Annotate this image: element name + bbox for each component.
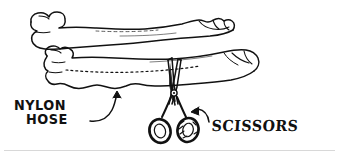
scissors-handle-right [175, 116, 201, 144]
label-nylon: NYLON [14, 98, 66, 112]
label-hose: HOSE [26, 112, 68, 126]
scissors-icon [147, 58, 201, 145]
nylon-stocking-icon [31, 12, 259, 88]
label-scissors: SCISSORS [211, 119, 299, 134]
scissors-handle-left [147, 117, 174, 146]
bottom-divider [4, 150, 335, 151]
curved-arrow-icon [90, 91, 121, 121]
illustration-canvas: NYLON HOSE SCISSORS [0, 0, 339, 163]
nylon-hose-scissors-drawing [0, 0, 339, 163]
